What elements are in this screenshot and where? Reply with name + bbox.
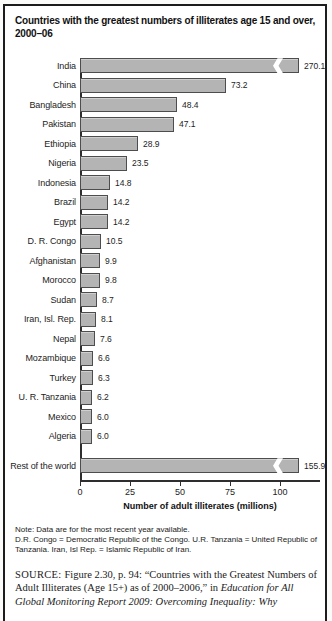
category-label: Rest of the world <box>10 461 76 471</box>
bar <box>80 78 226 93</box>
category-label: D. R. Congo <box>10 236 76 246</box>
bar-track: 8.1 <box>80 312 321 327</box>
category-label: Mexico <box>10 412 76 422</box>
x-axis-tick-label: 100 <box>272 487 287 497</box>
value-label: 155.9 <box>304 461 325 471</box>
value-label: 9.9 <box>105 256 117 266</box>
bar <box>80 292 97 307</box>
value-label: 6.6 <box>98 353 110 363</box>
value-label: 10.5 <box>106 236 123 246</box>
bar-track: 6.2 <box>80 390 321 405</box>
bar <box>80 97 177 112</box>
value-label: 14.2 <box>113 217 130 227</box>
bar-row: Iran, Isl. Rep.8.1 <box>10 310 321 330</box>
bar-track: 14.8 <box>80 175 321 190</box>
value-label: 6.2 <box>97 392 109 402</box>
value-label: 270.1 <box>304 61 325 71</box>
category-label: Pakistan <box>10 119 76 129</box>
figure-panel: Countries with the greatest numbers of i… <box>3 4 327 621</box>
bar-track: 14.2 <box>80 214 321 229</box>
category-label: U. R. Tanzania <box>10 392 76 402</box>
bar-track: 6.0 <box>80 409 321 424</box>
bar-row: Pakistan47.1 <box>10 115 321 135</box>
category-label: Morocco <box>10 275 76 285</box>
category-label: Sudan <box>10 295 76 305</box>
category-label: Indonesia <box>10 178 76 188</box>
category-label: Egypt <box>10 217 76 227</box>
value-label: 28.9 <box>143 139 160 149</box>
rest-of-world-gap <box>10 446 321 456</box>
category-label: Brazil <box>10 197 76 207</box>
category-label: Ethiopia <box>10 139 76 149</box>
bar <box>80 429 92 444</box>
value-label: 6.0 <box>97 412 109 422</box>
value-label: 6.0 <box>97 431 109 441</box>
chart-title: Countries with the greatest numbers of i… <box>15 14 317 40</box>
bar-track: 10.5 <box>80 234 321 249</box>
category-label: China <box>10 80 76 90</box>
bar-row: Nepal7.6 <box>10 329 321 349</box>
value-label: 8.7 <box>102 295 114 305</box>
bar-track: 8.7 <box>80 292 321 307</box>
x-axis-title: Number of adult illiterates (millions) <box>80 501 320 511</box>
bar-row: Mozambique6.6 <box>10 349 321 369</box>
category-label: Nigeria <box>10 158 76 168</box>
bar-row: Egypt14.2 <box>10 212 321 232</box>
bar-track: 6.0 <box>80 429 321 444</box>
category-label: Bangladesh <box>10 100 76 110</box>
bar <box>80 351 93 366</box>
bar-track: 270.1 <box>80 58 321 73</box>
bar-track: 14.2 <box>80 195 321 210</box>
value-label: 6.3 <box>98 373 110 383</box>
bar-row: Ethiopia28.9 <box>10 134 321 154</box>
x-axis-tick <box>80 482 81 486</box>
bar <box>80 370 93 385</box>
bar <box>80 156 127 171</box>
bar-row: Afghanistan9.9 <box>10 251 321 271</box>
bar-track: 9.8 <box>80 273 321 288</box>
value-label: 14.2 <box>113 197 130 207</box>
x-axis <box>80 480 320 487</box>
bar <box>80 390 92 405</box>
bar <box>80 136 138 151</box>
value-label: 9.8 <box>105 275 117 285</box>
bar-row: U. R. Tanzania6.2 <box>10 388 321 408</box>
x-axis-tick <box>230 482 231 486</box>
bar <box>80 214 108 229</box>
bar-row: Turkey6.3 <box>10 368 321 388</box>
bar <box>80 253 100 268</box>
x-axis-tick-label: 75 <box>225 487 235 497</box>
bar-row: D. R. Congo10.5 <box>10 232 321 252</box>
bar-track: 23.5 <box>80 156 321 171</box>
x-axis-tick-label: 50 <box>175 487 185 497</box>
category-label: Algeria <box>10 431 76 441</box>
value-label: 23.5 <box>132 158 149 168</box>
x-axis-tick-label: 0 <box>77 487 82 497</box>
bar-row: Nigeria23.5 <box>10 154 321 174</box>
value-label: 8.1 <box>101 314 113 324</box>
bar-track: 28.9 <box>80 136 321 151</box>
bar <box>80 234 101 249</box>
category-label: Iran, Isl. Rep. <box>10 314 76 324</box>
bar-track: 6.3 <box>80 370 321 385</box>
bar-row: Morocco9.8 <box>10 271 321 291</box>
bar <box>80 409 92 424</box>
value-label: 47.1 <box>179 119 196 129</box>
note-line: Note: Data are for the most recent year … <box>15 525 317 535</box>
bar-track: 9.9 <box>80 253 321 268</box>
bar-row: Bangladesh48.4 <box>10 95 321 115</box>
bar-track: 48.4 <box>80 97 321 112</box>
bar-rows: India270.1China73.2Bangladesh48.4Pakista… <box>10 56 321 476</box>
bar <box>80 117 174 132</box>
bar-row-rest-of-world: Rest of the world155.9 <box>10 456 321 476</box>
axis-break-mark <box>273 458 283 473</box>
bar <box>80 331 95 346</box>
bar <box>80 458 299 473</box>
bar-row: India270.1 <box>10 56 321 76</box>
bar-track: 47.1 <box>80 117 321 132</box>
bar-track: 6.6 <box>80 351 321 366</box>
category-label: Turkey <box>10 373 76 383</box>
bar-row: Algeria6.0 <box>10 427 321 447</box>
bar-row: China73.2 <box>10 76 321 96</box>
bar <box>80 175 110 190</box>
